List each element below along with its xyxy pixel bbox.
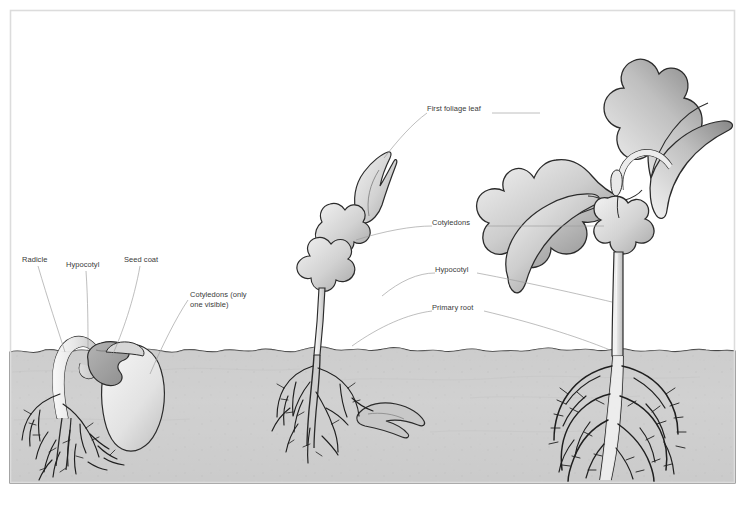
label-hypocotyl-left: Hypocotyl [66,260,99,270]
foliage-leaf-left-petiole [625,190,642,200]
leader-hypocotyl-right-b [382,273,435,296]
label-cotyledons: Cotyledons [432,218,470,228]
hypocotyl-stage3 [612,252,623,356]
label-seed-coat: Seed coat [124,255,158,265]
leader-primary-root-b [352,311,432,346]
germination-diagram: Radicle Hypocotyl Seed coat Cotyledons (… [0,0,745,508]
leader-radicle [38,266,65,352]
label-hypocotyl-right: Hypocotyl [435,265,468,275]
apex-bud [611,170,622,196]
cotyledon-mass-stage2-lower [297,237,355,291]
hypocotyl-stage2 [314,288,325,355]
label-cotyledons-only-one-visible: Cotyledons (only one visible) [190,290,247,309]
label-first-foliage-leaf: First foliage leaf [427,104,481,114]
diagram-canvas [0,0,745,508]
leader-primary-root [484,311,610,350]
cotyledon-mass-stage3 [594,196,654,254]
leader-first-foliage-b [384,113,427,158]
label-radicle: Radicle [22,255,47,265]
leader-hypocotyl-right [477,273,612,302]
label-primary-root: Primary root [432,303,473,313]
